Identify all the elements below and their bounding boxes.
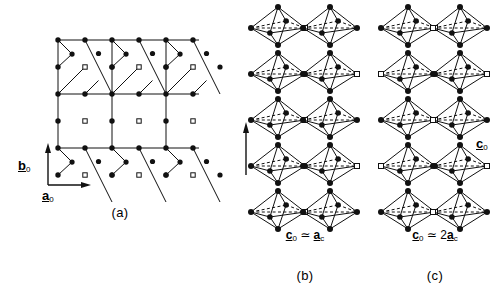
bond-line (322, 99, 330, 125)
bond-line (278, 166, 305, 183)
bond-line (270, 99, 278, 125)
bond-line (408, 145, 435, 166)
bond-line (400, 120, 435, 125)
panel-b-drawing (238, 0, 370, 298)
bond-line (270, 212, 305, 217)
vacancy-site (431, 26, 436, 31)
atom-site (484, 25, 490, 31)
atom-site (354, 25, 360, 31)
bond-line (251, 120, 278, 137)
bond-line (303, 145, 330, 166)
bond-line (330, 7, 357, 28)
atom-site (275, 88, 281, 94)
atom-site (430, 71, 436, 77)
atom-site (413, 202, 419, 208)
atom-site (248, 163, 254, 169)
vacancy-site (83, 173, 87, 177)
atom-site (275, 180, 281, 186)
bond-line (330, 166, 357, 183)
bond-line (278, 28, 305, 45)
vacancy-site (191, 119, 195, 123)
bond-line (408, 99, 435, 120)
atom-site (123, 159, 128, 164)
bond-line (278, 74, 305, 91)
bond-line (251, 53, 278, 74)
c-axis-arrowhead (243, 122, 249, 133)
atom-site (275, 96, 281, 102)
atom-site (283, 64, 289, 70)
bond-line (330, 113, 338, 137)
bond-line (166, 162, 180, 175)
atom-site (300, 117, 306, 123)
bond-line (251, 7, 278, 28)
atom-site (248, 117, 254, 123)
bond-line (270, 120, 305, 125)
bond-line (381, 28, 408, 45)
bond-line (166, 67, 193, 94)
bond-line (322, 28, 357, 33)
bond-line (381, 120, 408, 137)
bond-line (400, 191, 408, 217)
bond-line (381, 99, 408, 120)
vacancy-site (191, 173, 195, 177)
atom-site (163, 118, 168, 123)
atom-site (55, 91, 60, 96)
bond-line (85, 40, 112, 94)
bond-line (278, 191, 305, 212)
atom-site (136, 91, 141, 96)
relation-operator-c: ≃ (427, 228, 437, 242)
atom-site (267, 168, 273, 174)
atom-site (275, 42, 281, 48)
bond-line (381, 212, 408, 229)
bond-line (112, 67, 139, 94)
atom-site (405, 88, 411, 94)
atom-site (335, 156, 341, 162)
atom-site (55, 172, 60, 177)
atom-site (248, 209, 254, 215)
atom-site (327, 42, 333, 48)
atom-site (413, 64, 419, 70)
bond-line (400, 212, 435, 217)
bond-line (433, 191, 460, 212)
bond-line (330, 53, 357, 74)
atom-site (413, 110, 419, 116)
bond-line (270, 166, 305, 171)
bond-line (381, 53, 408, 74)
atom-site (354, 209, 360, 215)
atom-site (275, 226, 281, 232)
panel-c (368, 0, 500, 298)
atom-site (484, 209, 490, 215)
vacancy-site (485, 72, 490, 77)
bond-line (330, 205, 338, 229)
atom-site (136, 145, 141, 150)
atom-site (300, 25, 306, 31)
atom-site (319, 76, 325, 82)
figure-root: b0 a0 c0 c0 ≃ ac c0 ≃ 2ac (a) ( (0, 0, 500, 298)
bond-line (193, 148, 220, 202)
atom-site (248, 71, 254, 77)
bond-line (303, 212, 330, 229)
bond-line (408, 67, 416, 91)
bond-line (322, 7, 330, 33)
bond-line (433, 166, 460, 183)
bond-line (452, 53, 460, 79)
atom-site (300, 163, 306, 169)
panel-c-drawing (368, 0, 500, 298)
bond-line (330, 28, 357, 45)
atom-site (248, 25, 254, 31)
atom-site (405, 188, 411, 194)
atom-site (55, 145, 60, 150)
atom-site (465, 110, 471, 116)
atom-site (300, 209, 306, 215)
bond-line (408, 191, 435, 212)
bond-line (433, 99, 460, 120)
bond-line (278, 53, 305, 74)
atom-site (267, 122, 273, 128)
atom-site (177, 159, 182, 164)
atom-site (283, 18, 289, 24)
bond-line (278, 205, 286, 229)
atom-site (457, 96, 463, 102)
bond-line (251, 212, 278, 229)
atom-site (177, 51, 182, 56)
bond-line (251, 166, 278, 183)
